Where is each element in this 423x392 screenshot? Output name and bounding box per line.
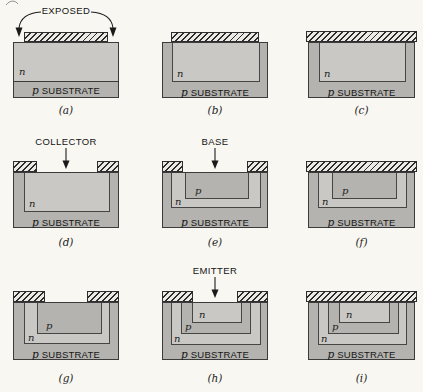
panel-caption: (d) xyxy=(13,236,119,248)
p-region: n p xyxy=(181,303,251,334)
oxide-mask-right-icon xyxy=(87,291,119,302)
emitter-arrow-icon xyxy=(211,277,219,299)
oxide-mask-left-icon xyxy=(162,161,183,172)
region-label-p: p xyxy=(342,186,348,196)
n-region: p n xyxy=(24,303,110,344)
wafer-block: p n p SUBSTRATE xyxy=(13,302,119,360)
oxide-mask-icon xyxy=(171,32,259,42)
base-label: BASE xyxy=(162,136,268,147)
region-label-n: n xyxy=(321,334,327,344)
substrate-label: p SUBSTRATE xyxy=(163,216,267,228)
oxide-mask-right-icon xyxy=(237,291,268,302)
region-label-p: p xyxy=(185,322,191,332)
wafer-block: n p SUBSTRATE xyxy=(162,42,268,98)
collector-label: COLLECTOR xyxy=(13,136,119,147)
region-label-p: p xyxy=(332,322,338,332)
n-region: n p n xyxy=(171,303,261,345)
region-label-p: p xyxy=(46,321,52,331)
substrate-label: p SUBSTRATE xyxy=(163,86,267,98)
p-region: p xyxy=(37,303,102,334)
substrate-label: p SUBSTRATE xyxy=(309,348,414,360)
collector-arrow-icon xyxy=(62,148,70,170)
oxide-mask-icon xyxy=(306,291,417,302)
substrate-region: p SUBSTRATE xyxy=(14,81,118,97)
n-region: n xyxy=(172,43,260,82)
n-region: p n xyxy=(171,173,261,208)
region-label-n: n xyxy=(28,333,34,343)
substrate-label: p SUBSTRATE xyxy=(14,348,118,360)
panel-d: COLLECTOR n p SUBSTRATE (d) xyxy=(0,130,141,260)
wafer-block: n p SUBSTRATE xyxy=(13,172,119,228)
panel-caption: (h) xyxy=(162,372,268,384)
emitter-n-region: n xyxy=(339,303,390,323)
n-region: n p n xyxy=(318,303,407,345)
wafer-block: n p n p SUBSTRATE xyxy=(162,302,268,360)
region-label-n: n xyxy=(175,197,181,207)
region-label-emitter-n: n xyxy=(346,310,352,320)
region-label-emitter-n: n xyxy=(199,310,205,320)
oxide-mask-icon xyxy=(306,31,417,42)
panel-caption: (c) xyxy=(308,104,415,116)
wafer-block: n p SUBSTRATE xyxy=(13,42,119,98)
oxide-mask-right-icon xyxy=(97,161,119,172)
panel-c: n p SUBSTRATE (c) xyxy=(282,0,423,130)
region-label-n: n xyxy=(177,69,183,79)
panel-e: BASE p n p SUBSTRATE (e) xyxy=(141,130,282,260)
n-region: p n xyxy=(318,173,407,208)
panel-f: p n p SUBSTRATE (f) xyxy=(282,130,423,260)
substrate-label: p SUBSTRATE xyxy=(14,216,118,228)
fabrication-steps-figure: EXPOSED n p SUBSTRATE (a) n p SUBSTRATE … xyxy=(0,0,423,392)
oxide-mask-icon xyxy=(306,161,417,172)
panel-caption: (e) xyxy=(162,236,268,248)
region-label-n: n xyxy=(29,199,35,209)
wafer-block: p n p SUBSTRATE xyxy=(308,172,415,228)
panel-caption: (f) xyxy=(308,236,415,248)
region-label-n: n xyxy=(174,334,180,344)
panel-caption: (i) xyxy=(308,372,415,384)
substrate-label: p SUBSTRATE xyxy=(309,86,414,98)
region-label-n: n xyxy=(324,69,330,79)
panel-caption: (b) xyxy=(162,104,268,116)
panel-caption: (g) xyxy=(13,372,119,384)
substrate-label: p SUBSTRATE xyxy=(309,216,414,228)
oxide-mask-left-icon xyxy=(13,161,37,172)
wafer-block: n p n p SUBSTRATE xyxy=(308,302,415,360)
p-region: n p xyxy=(328,303,399,334)
panel-h: EMITTER n p n p SUBSTRATE (h) xyxy=(141,262,282,392)
panel-a: EXPOSED n p SUBSTRATE (a) xyxy=(0,0,141,130)
substrate-label: p SUBSTRATE xyxy=(14,84,118,96)
wafer-block: n p SUBSTRATE xyxy=(308,42,415,98)
n-region: n xyxy=(319,43,406,82)
p-region: p xyxy=(332,173,397,199)
emitter-n-region: n xyxy=(192,303,242,323)
p-region: p xyxy=(185,173,249,199)
oxide-mask-left-icon xyxy=(13,291,45,302)
region-label-n: n xyxy=(322,197,328,207)
panel-g: p n p SUBSTRATE (g) xyxy=(0,262,141,392)
n-region: n xyxy=(24,173,110,212)
wafer-block: p n p SUBSTRATE xyxy=(162,172,268,228)
base-arrow-icon xyxy=(211,148,219,170)
panel-caption: (a) xyxy=(13,104,119,116)
oxide-mask-right-icon xyxy=(247,161,268,172)
region-label-p: p xyxy=(195,186,201,196)
emitter-label: EMITTER xyxy=(162,265,268,276)
region-label-n: n xyxy=(19,67,25,77)
oxide-mask-left-icon xyxy=(162,291,193,302)
oxide-mask-icon xyxy=(24,32,108,42)
substrate-label: p SUBSTRATE xyxy=(163,348,267,360)
panel-i: n p n p SUBSTRATE (i) xyxy=(282,262,423,392)
panel-b: n p SUBSTRATE (b) xyxy=(141,0,282,130)
